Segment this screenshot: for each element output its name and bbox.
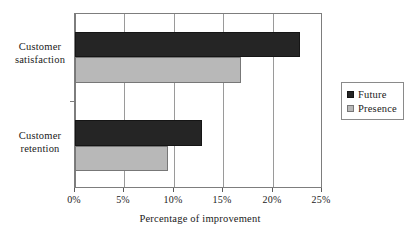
bar-retention-future (75, 120, 202, 146)
category-label-satisfaction-line1: Customer (4, 40, 76, 53)
xtick-label-20: 20% (252, 194, 292, 205)
category-label-retention-line2: retention (4, 142, 76, 155)
plot-area (74, 13, 322, 188)
xtick-mark-5 (123, 188, 124, 192)
xtick-mark-25 (321, 188, 322, 192)
xtick-mark-10 (173, 188, 174, 192)
xtick-label-15: 15% (202, 194, 242, 205)
legend-item-presence: Presence (347, 101, 397, 115)
xtick-label-0: 0% (54, 194, 94, 205)
xtick-mark-0 (74, 188, 75, 192)
legend-label-presence: Presence (358, 103, 397, 114)
legend-swatch-future-icon (347, 91, 354, 98)
category-label-retention-line1: Customer (4, 129, 76, 142)
legend-item-future: Future (347, 87, 397, 101)
x-axis-title-text: Percentage of improvement (139, 213, 260, 224)
legend-swatch-presence-icon (347, 105, 354, 112)
xtick-label-5: 5% (103, 194, 143, 205)
legend-label-future: Future (358, 89, 387, 100)
category-label-satisfaction-line2: satisfaction (4, 53, 76, 66)
chart-screenshot: Customer satisfaction Customer retention… (0, 0, 416, 243)
xtick-label-10: 10% (153, 194, 193, 205)
bar-satisfaction-future (75, 32, 300, 57)
category-label-satisfaction: Customer satisfaction (4, 40, 76, 66)
bar-retention-presence (75, 146, 168, 171)
x-axis-title: Percentage of improvement (0, 213, 416, 224)
category-axis-tick (70, 101, 75, 102)
xtick-mark-20 (272, 188, 273, 192)
bar-satisfaction-presence (75, 57, 241, 83)
category-label-retention: Customer retention (4, 129, 76, 155)
chart-legend: Future Presence (341, 82, 404, 120)
xtick-label-25: 25% (301, 194, 341, 205)
xtick-mark-15 (222, 188, 223, 192)
